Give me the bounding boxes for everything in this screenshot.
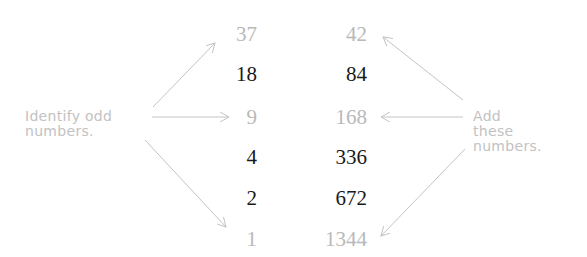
right-number-row-1: 42 — [287, 22, 367, 46]
left-number-row-1: 37 — [177, 22, 257, 46]
right-number-row-6: 1344 — [287, 227, 367, 251]
arrow-to-42 — [383, 37, 463, 100]
arrow-to-1344 — [381, 149, 465, 236]
right-label-line-1: Add — [473, 109, 542, 124]
left-label-line-2: numbers. — [25, 124, 112, 139]
right-number-row-3: 168 — [287, 105, 367, 129]
left-number-row-6: 1 — [177, 227, 257, 251]
right-label-line-3: numbers. — [473, 139, 542, 154]
left-label: Identify odd numbers. — [25, 109, 112, 139]
left-number-row-4: 4 — [177, 145, 257, 169]
left-number-row-2: 18 — [177, 62, 257, 86]
right-number-row-2: 84 — [287, 62, 367, 86]
left-number-row-3: 9 — [177, 105, 257, 129]
right-label-line-2: these — [473, 124, 542, 139]
right-number-row-5: 672 — [287, 186, 367, 210]
right-label: Add these numbers. — [473, 109, 542, 154]
right-number-row-4: 336 — [287, 145, 367, 169]
left-number-row-5: 2 — [177, 186, 257, 210]
left-label-line-1: Identify odd — [25, 109, 112, 124]
